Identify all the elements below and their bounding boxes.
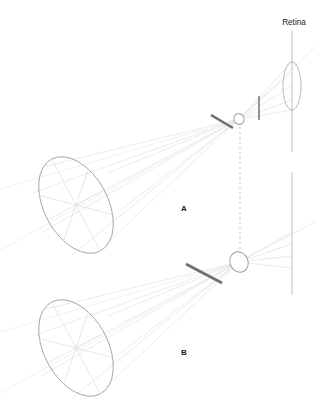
panel-label-a: A [181,204,187,213]
ray-line [0,262,239,393]
ray-line [239,47,315,119]
retina-label: Retina [282,18,306,27]
diagram-canvas: A [0,0,315,413]
ray-line [239,86,292,119]
ray-envelope-a [0,119,239,250]
pupil-b [226,249,251,276]
panel-b-group: B [0,172,315,409]
object-spokes-a [23,144,128,266]
ray-fan-pupil-to-retina-b [239,222,315,268]
ray-line [118,119,239,212]
ray-line [41,119,239,233]
ray-line [118,262,239,355]
panel-label-b: B [181,348,187,357]
ray-fan-object-to-pupil-b [33,262,239,398]
ray-line [106,119,239,244]
object-ellipse-a [23,144,128,266]
ray-line [239,222,315,262]
ray-line [239,62,292,119]
spoke [39,169,113,241]
ray-envelope-b [0,262,239,393]
spoke [39,312,113,384]
object-spokes-b [23,287,128,409]
ray-line [0,119,239,250]
ray-line [0,119,239,189]
object-ellipse-b [23,287,128,409]
ray-fan-pupil-to-retina-a [239,47,315,119]
ray-line [41,262,239,376]
ray-fan-object-to-pupil-a [33,119,239,255]
panel-a-group: A [0,30,315,266]
optics-diagram-figure: A [0,0,315,413]
